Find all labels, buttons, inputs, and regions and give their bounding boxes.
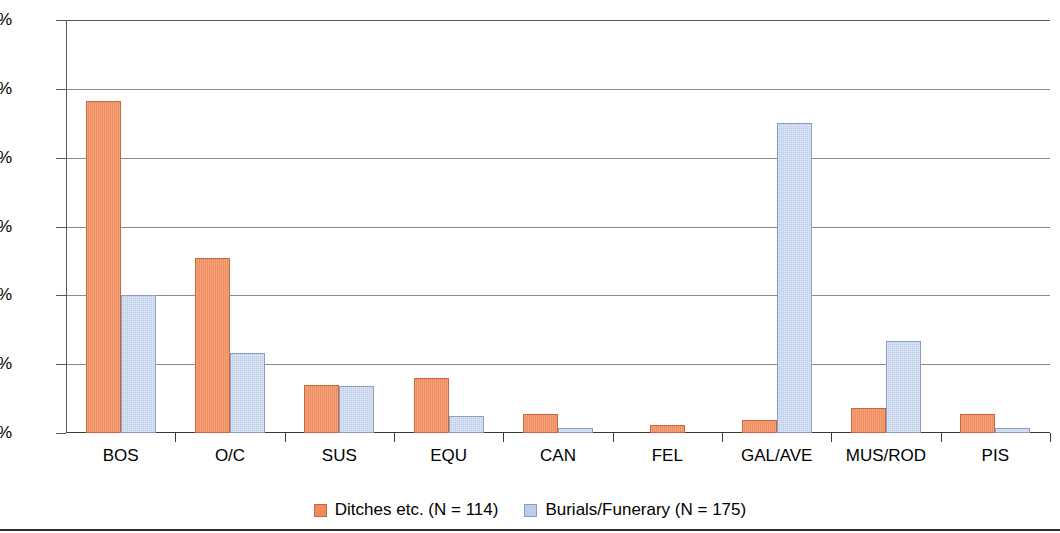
- y-tick-mark: [56, 227, 66, 228]
- x-axis-tick: [285, 433, 286, 442]
- bar-gal-ave-series-1: [777, 123, 812, 433]
- x-axis-tick: [175, 433, 176, 442]
- bar-group: [66, 20, 175, 433]
- bar-group: [722, 20, 831, 433]
- bar-pair: [831, 20, 940, 433]
- legend-entry-1: Burials/Funerary (N = 175): [524, 500, 746, 520]
- bar-gal-ave-series-0: [742, 420, 777, 433]
- bar-bos-series-1: [121, 295, 156, 433]
- x-tick-label-pis: PIS: [941, 447, 1050, 464]
- x-tick-label-o-c: O/C: [175, 447, 284, 464]
- legend-entry-0: Ditches etc. (N = 114): [314, 500, 499, 520]
- bar-group: [503, 20, 612, 433]
- y-tick-label: 0%: [0, 424, 12, 441]
- bar-mus-rod-series-1: [886, 341, 921, 433]
- bar-bos-series-0: [86, 101, 121, 433]
- x-axis-tick: [722, 433, 723, 442]
- y-tick-label: 20%: [0, 286, 12, 303]
- bar-group: [285, 20, 394, 433]
- bar-pair: [66, 20, 175, 433]
- y-tick-mark: [56, 89, 66, 90]
- bar-sus-series-0: [304, 385, 339, 433]
- bar-pis-series-1: [995, 428, 1030, 433]
- legend-swatch-icon: [314, 504, 327, 517]
- y-tick-label: 10%: [0, 355, 12, 372]
- page-bottom-edge: [0, 529, 1060, 531]
- y-tick-mark: [56, 20, 66, 21]
- y-tick-label: 30%: [0, 218, 12, 235]
- y-tick-label: 60%: [0, 11, 12, 28]
- bar-group: [941, 20, 1050, 433]
- legend-label: Ditches etc. (N = 114): [335, 500, 499, 520]
- bar-group: [175, 20, 284, 433]
- bar-equ-series-0: [414, 378, 449, 433]
- x-axis-tick: [394, 433, 395, 442]
- x-tick-label-fel: FEL: [613, 447, 722, 464]
- x-tick-label-mus-rod: MUS/ROD: [831, 447, 940, 464]
- bar-group: [613, 20, 722, 433]
- bar-group: [394, 20, 503, 433]
- bar-pair: [285, 20, 394, 433]
- y-tick-mark: [56, 295, 66, 296]
- y-tick-mark: [56, 433, 66, 434]
- y-tick-mark: [56, 364, 66, 365]
- y-tick-label: 40%: [0, 149, 12, 166]
- x-axis-tick: [941, 433, 942, 442]
- bar-pair: [722, 20, 831, 433]
- bar-pair: [941, 20, 1050, 433]
- chart-legend: Ditches etc. (N = 114)Burials/Funerary (…: [0, 500, 1060, 520]
- x-tick-label-can: CAN: [503, 447, 612, 464]
- bar-chart: 0%10%20%30%40%50%60% BOSO/CSUSEQUCANFELG…: [0, 0, 1060, 533]
- bar-pair: [394, 20, 503, 433]
- x-tick-label-equ: EQU: [394, 447, 503, 464]
- x-axis-tick: [503, 433, 504, 442]
- y-tick-label: 50%: [0, 80, 12, 97]
- bar-fel-series-0: [650, 425, 685, 433]
- bar-can-series-0: [523, 414, 558, 433]
- bar-sus-series-1: [339, 386, 374, 433]
- legend-label: Burials/Funerary (N = 175): [545, 500, 746, 520]
- y-tick-mark: [56, 158, 66, 159]
- bar-group: [831, 20, 940, 433]
- bar-equ-series-1: [449, 416, 484, 433]
- legend-swatch-icon: [524, 504, 537, 517]
- x-tick-label-sus: SUS: [285, 447, 394, 464]
- bar-o-c-series-1: [230, 353, 265, 433]
- x-axis-tick: [831, 433, 832, 442]
- bar-can-series-1: [558, 428, 593, 433]
- bar-pair: [175, 20, 284, 433]
- bar-pair: [503, 20, 612, 433]
- x-tick-label-bos: BOS: [66, 447, 175, 464]
- bar-o-c-series-0: [195, 258, 230, 433]
- x-axis-tick: [613, 433, 614, 442]
- bar-mus-rod-series-0: [851, 408, 886, 433]
- bar-pis-series-0: [960, 414, 995, 433]
- x-axis-tick: [1050, 433, 1051, 442]
- x-tick-label-gal-ave: GAL/AVE: [722, 447, 831, 464]
- bar-pair: [613, 20, 722, 433]
